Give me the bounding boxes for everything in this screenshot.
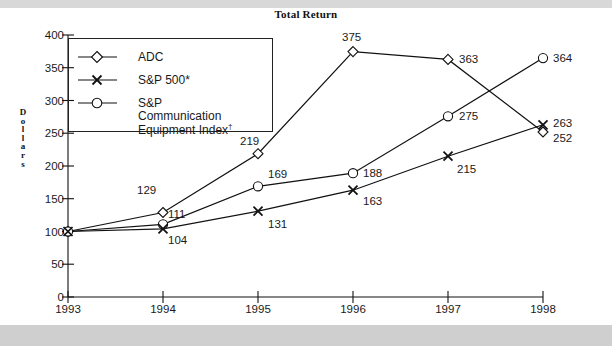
legend-label-sp500: S&P 500* [138,73,190,87]
bottom-white-edge [0,346,612,355]
data-label-adc-1997: 363 [459,53,478,65]
marker-cross [444,152,453,161]
data-label-sp500-1997: 215 [457,163,476,175]
legend-label-spcomm-line3: Equipment Index† [138,122,233,137]
bottom-gray-band [0,325,612,346]
legend-label-spcomm-line2: Communication [138,109,221,123]
marker-circle [538,54,547,63]
marker-diamond [158,208,168,218]
data-label-adc-1995: 219 [240,135,259,147]
marker-diamond [443,54,453,64]
data-label-adc-1994: 129 [137,184,156,196]
marker-circle [158,220,167,229]
data-label-sp500-1995: 131 [268,218,287,230]
data-label-sp500-1996: 163 [363,195,382,207]
legend-label-spcomm: S&P [138,96,162,110]
data-label-sp500-1994: 104 [168,234,187,246]
data-label-spcomm-1994: 111 [168,208,185,220]
data-label-sp500-1998: 263 [553,117,572,129]
dagger-footnote-icon: † [228,122,232,131]
data-label-spcomm-1997: 275 [459,110,478,122]
data-label-spcomm-1998: 364 [553,52,572,64]
data-label-adc-1996: 375 [342,31,361,43]
series-line-sp500 [68,125,543,232]
legend-label-spcomm-line3-text: Equipment Index [138,123,228,137]
data-label-adc-1998: 252 [553,132,572,144]
marker-circle [253,182,262,191]
chart-page: Total Return D o l l a r s 400 350 300 2… [0,0,612,355]
marker-circle [348,169,357,178]
legend-label-adc: ADC [138,50,163,64]
marker-circle [443,112,452,121]
data-label-spcomm-1996: 188 [363,167,382,179]
data-label-spcomm-1995: 169 [268,168,287,180]
marker-cross [349,186,358,195]
